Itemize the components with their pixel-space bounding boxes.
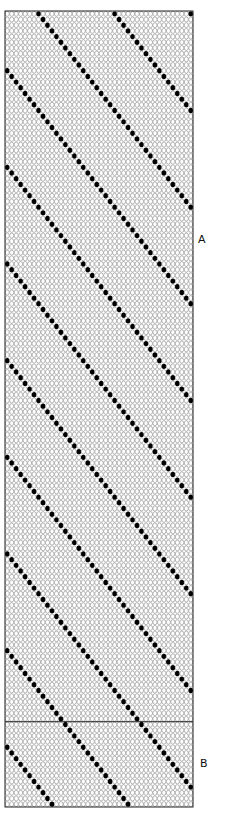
stitch-chart-grid bbox=[0, 0, 225, 827]
section-label-a: A bbox=[198, 233, 206, 246]
section-label-b: B bbox=[200, 757, 208, 770]
